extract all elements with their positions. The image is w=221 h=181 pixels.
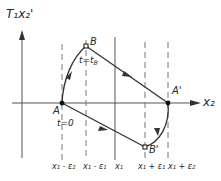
tick-x1-plus-e1: x₁ + ε₁ bbox=[138, 163, 165, 171]
label-t-zero: t=0 bbox=[57, 119, 74, 128]
label-B: B bbox=[90, 37, 97, 47]
arc-Aprime-to-Bprime bbox=[145, 103, 168, 147]
point-B bbox=[84, 44, 88, 48]
y-axis-label: T₁x₂' bbox=[6, 8, 33, 20]
arrow-down-icon bbox=[154, 128, 160, 136]
y-axis bbox=[19, 30, 25, 158]
label-B-prime: B' bbox=[149, 145, 159, 155]
label-t-tb: t=tB bbox=[79, 56, 98, 66]
x-axis-label: x₂ bbox=[203, 96, 215, 108]
tick-x1-minus-e2: x₁ - ε₂ bbox=[52, 163, 75, 171]
phase-plane-diagram bbox=[0, 0, 221, 181]
y-axis-arrow-icon bbox=[19, 30, 25, 40]
point-A-prime bbox=[166, 101, 171, 106]
tick-x1: x₁ bbox=[115, 163, 123, 171]
tick-x1-minus-e1: x₁ - ε₁ bbox=[83, 163, 106, 171]
point-B-prime bbox=[143, 145, 147, 149]
x-axis-arrow-icon bbox=[190, 100, 201, 106]
point-A bbox=[60, 101, 64, 105]
x-axis bbox=[12, 100, 201, 106]
label-A-prime: A' bbox=[172, 86, 182, 96]
segment-Bprime-to-A bbox=[62, 103, 145, 147]
tick-x1-plus-e2: x₁ + ε₂ bbox=[168, 163, 195, 171]
label-A: A bbox=[53, 106, 60, 116]
